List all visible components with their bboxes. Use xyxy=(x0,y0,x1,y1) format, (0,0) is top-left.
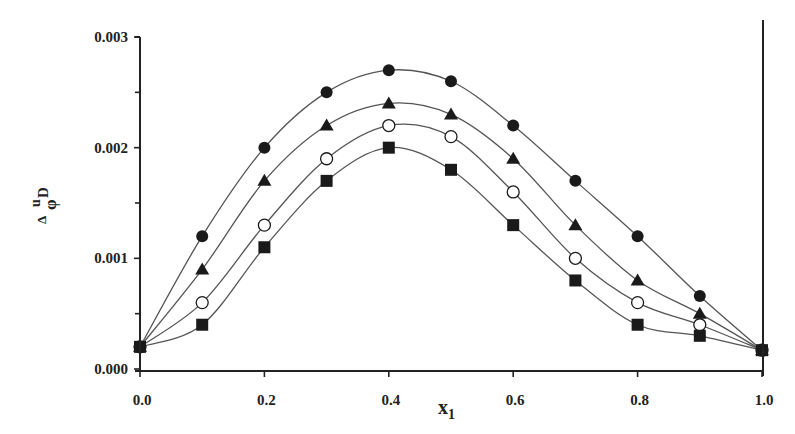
marker-filled-circle xyxy=(445,75,457,87)
tick-labels: 0.0000.0010.0020.0030.00.20.40.60.81.0 xyxy=(94,29,773,408)
x-tick-label: 0.4 xyxy=(381,392,400,408)
marker-open-circle xyxy=(383,120,395,132)
x-tick-label: 1.0 xyxy=(755,392,774,408)
marker-filled-triangle xyxy=(195,262,209,274)
marker-filled-square xyxy=(321,175,333,187)
marker-filled-circle xyxy=(196,230,208,242)
marker-filled-triangle xyxy=(444,107,458,119)
x-tick-label: 0.2 xyxy=(257,392,276,408)
y-tick-label: 0.002 xyxy=(94,140,128,156)
curve-open-circle xyxy=(140,124,762,350)
marker-open-circle xyxy=(258,219,270,231)
marker-filled-square xyxy=(445,164,457,176)
marker-filled-square xyxy=(196,319,208,331)
curve-filled-square xyxy=(140,147,762,350)
marker-open-circle xyxy=(569,252,581,264)
marker-filled-triangle xyxy=(631,273,645,285)
marker-filled-circle xyxy=(569,175,581,187)
x-tick-label: 0.8 xyxy=(630,392,649,408)
x-tick-label: 0.6 xyxy=(506,392,525,408)
y-tick-label: 0.000 xyxy=(94,361,128,377)
x-axis-title: x1 xyxy=(438,396,455,422)
marker-filled-circle xyxy=(321,86,333,98)
marker-filled-square xyxy=(569,274,581,286)
marker-filled-triangle xyxy=(382,96,396,108)
marker-filled-square xyxy=(632,319,644,331)
marker-filled-circle xyxy=(632,230,644,242)
marker-open-circle xyxy=(507,186,519,198)
marker-filled-square xyxy=(383,142,395,154)
marker-filled-circle xyxy=(507,120,519,132)
marker-open-circle xyxy=(694,319,706,331)
y-axis-title: Δ φ u D xyxy=(28,187,60,224)
marker-filled-circle xyxy=(383,64,395,76)
y-title-sub: D xyxy=(35,187,51,198)
x-tick-label: 0.0 xyxy=(133,392,152,408)
y-tick-label: 0.003 xyxy=(94,29,128,45)
axis-ticks xyxy=(134,37,762,377)
marker-filled-square xyxy=(694,330,706,342)
marker-filled-circle xyxy=(694,290,706,302)
marker-open-circle xyxy=(196,297,208,309)
y-tick-label: 0.001 xyxy=(94,250,128,266)
marker-open-circle xyxy=(445,131,457,143)
marker-open-circle xyxy=(632,297,644,309)
y-title-sup: u xyxy=(28,199,43,207)
marker-filled-triangle xyxy=(693,307,707,319)
chart: 0.0000.0010.0020.0030.00.20.40.60.81.0 x… xyxy=(0,0,795,434)
marker-filled-triangle xyxy=(506,152,520,164)
marker-open-circle xyxy=(321,153,333,165)
y-title-phi: φ xyxy=(41,199,60,210)
marker-filled-triangle xyxy=(320,119,334,131)
marker-filled-circle xyxy=(258,142,270,154)
data-markers xyxy=(133,64,769,356)
marker-filled-square xyxy=(507,219,519,231)
marker-filled-square xyxy=(258,241,270,253)
y-title-delta: Δ xyxy=(34,216,49,224)
